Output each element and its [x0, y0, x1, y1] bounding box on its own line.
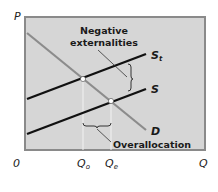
qo-tick-label: Qo	[77, 157, 90, 171]
equilibrium-point	[108, 98, 113, 103]
externality-label-line2: externalities	[70, 37, 138, 48]
externality-diagram: Negative externalities Overallocation St…	[0, 0, 218, 192]
diagram-canvas: Negative externalities Overallocation St…	[0, 0, 218, 192]
y-axis-label: P	[14, 10, 21, 23]
overallocation-label: Overallocation	[113, 139, 191, 150]
origin-label: 0	[13, 157, 20, 170]
optimal-point	[80, 76, 85, 81]
externality-label-line1: Negative	[80, 25, 128, 36]
supply-label: S	[151, 83, 159, 96]
qe-tick-label: Qe	[105, 157, 118, 171]
demand-label: D	[151, 125, 160, 138]
x-axis-label: Q	[199, 157, 208, 170]
